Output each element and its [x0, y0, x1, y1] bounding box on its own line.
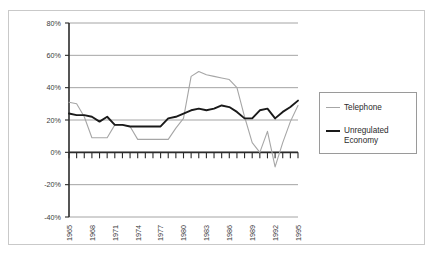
legend-swatch-telephone-icon [326, 107, 340, 108]
x-axis-tick-label: 1989 [248, 225, 257, 241]
x-axis-tick-label: 1986 [225, 225, 234, 241]
x-axis-tick-label: 1980 [179, 225, 188, 241]
x-axis-tick-label: 1992 [271, 225, 280, 241]
x-axis-tick-label: 1977 [156, 225, 165, 241]
chart-frame: 80%60%40%20%0%-20%-40%196519681971197419… [8, 10, 425, 245]
y-axis-tick-label: -20% [44, 180, 61, 189]
x-axis-tick-label: 1995 [294, 225, 303, 241]
y-axis-tick-label: 80% [47, 19, 62, 28]
x-axis-tick-label: 1968 [88, 225, 97, 241]
y-axis-tick-label: -40% [44, 213, 61, 222]
legend-label-telephone: Telephone [344, 103, 382, 113]
y-axis-tick-label: 40% [47, 83, 62, 92]
legend-label-unregulated-economy: Unregulated Economy [344, 126, 389, 146]
y-axis-tick-label: 60% [47, 51, 62, 60]
legend-item-telephone: Telephone [326, 103, 382, 113]
chart-legend: Telephone Unregulated Economy [319, 92, 417, 154]
x-axis-tick-label: 1971 [111, 225, 120, 241]
x-axis-tick-label: 1974 [134, 225, 143, 241]
y-axis-tick-label: 0% [51, 148, 62, 157]
chart-figure: 80%60%40%20%0%-20%-40%196519681971197419… [0, 0, 435, 257]
legend-swatch-unregulated-economy-icon [326, 130, 340, 132]
legend-item-unregulated-economy: Unregulated Economy [326, 126, 389, 146]
x-axis-tick-label: 1983 [202, 225, 211, 241]
series-line-unregulated-economy [69, 101, 298, 127]
x-axis-tick-label: 1965 [65, 225, 74, 241]
y-axis-tick-label: 20% [47, 116, 62, 125]
